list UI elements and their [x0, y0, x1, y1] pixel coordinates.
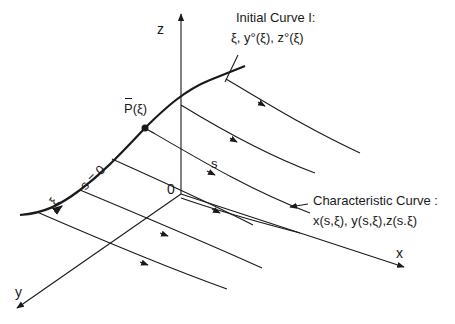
characteristics-diagram [0, 0, 455, 324]
y-axis-label: y [15, 285, 22, 300]
characteristic-curve-1 [37, 212, 227, 289]
point-p-marker [142, 125, 149, 132]
origin-label: 0 [167, 182, 175, 197]
z-axis-label: z [157, 22, 164, 37]
initial-curve-equation: ξ, y°(ξ), z°(ξ) [231, 30, 304, 45]
s-param-label: s [211, 156, 218, 171]
characteristic-curve-2 [80, 190, 262, 268]
initial-curve-title: Initial Curve I: [236, 10, 315, 25]
point-p-label: P(ξ) [124, 101, 147, 116]
char-curve-equation: x(s,ξ), y(s,ξ),z(s.ξ) [313, 213, 417, 228]
characteristic-curve-origin-a [181, 198, 300, 233]
char-curve-title: Characteristic Curve : [313, 193, 438, 208]
characteristic-curve-5 [181, 105, 315, 173]
initial-curve [20, 66, 245, 215]
characteristic-curve-4 [145, 128, 310, 213]
characteristic-curve-3 [112, 159, 253, 225]
x-axis-label: x [396, 246, 403, 261]
